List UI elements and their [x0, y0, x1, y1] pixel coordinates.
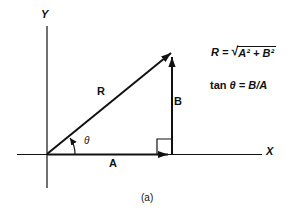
- vector-diagram-canvas: [0, 0, 297, 218]
- theta-angle-label: θ: [84, 136, 89, 146]
- vector-diagram-figure: Y X R B A θ R = √A² + B² tan θ = B/A (a): [0, 0, 297, 218]
- x-axis-label: X: [266, 146, 273, 157]
- vector-r-label: R: [97, 86, 105, 97]
- radical-expression: √A² + B²: [231, 46, 276, 59]
- tangent-function-name: tan: [210, 79, 230, 91]
- right-angle-marker: [157, 139, 172, 154]
- radical-sign: √: [231, 45, 238, 58]
- radicand: A² + B²: [237, 46, 276, 59]
- tangent-equation: tan θ = B/A: [210, 79, 267, 91]
- vector-r-line: [47, 53, 171, 154]
- vector-a-label: A: [109, 158, 117, 169]
- theta-arc: [70, 138, 75, 154]
- vector-b-label: B: [174, 96, 182, 107]
- tangent-equation-body: θ = B/A: [230, 79, 268, 91]
- figure-caption: (a): [141, 193, 153, 203]
- resultant-equation-lhs: R =: [211, 46, 231, 58]
- resultant-equation: R = √A² + B²: [211, 46, 276, 59]
- y-axis-label: Y: [41, 9, 48, 20]
